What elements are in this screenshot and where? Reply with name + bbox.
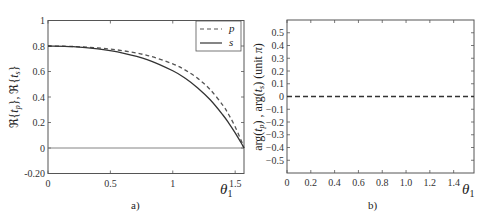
legend-label-p: p <box>228 22 235 34</box>
y-tick-label: −0.2 <box>266 117 284 128</box>
y-tick-label: 0.4 <box>272 40 285 51</box>
y-tick-label: -0.20 <box>24 168 45 179</box>
x-tick-label: 0.8 <box>376 177 389 188</box>
y-axis-label-b: arg(tp) , arg(ts) (unit π) <box>251 43 266 151</box>
series-line-s <box>48 46 244 148</box>
x-tick-label: 1.2 <box>424 177 437 188</box>
y-tick-label: 0 <box>40 143 45 154</box>
y-tick-label: 0.2 <box>33 117 46 128</box>
panel-a: 00.511.5-0.2000.20.40.60.81 p s ℜ{tp}, ℜ… <box>7 15 244 212</box>
y-axis-label-a: ℜ{tp}, ℜ{ts} <box>7 66 22 129</box>
y-tick-label: 0.8 <box>33 41 46 52</box>
ticks-b: 00.20.40.60.81.01.21.4−0.5−0.4−0.3−0.2−0… <box>266 20 474 188</box>
y-tick-label: −0.5 <box>266 155 284 166</box>
x-tick-label: 1 <box>170 178 175 189</box>
y-tick-label: −0.1 <box>266 104 284 115</box>
panel-b: 00.20.40.60.81.01.21.4−0.5−0.4−0.3−0.2−0… <box>251 20 474 212</box>
y-tick-label: 0.4 <box>33 92 46 103</box>
y-tick-label: 0.3 <box>272 53 285 64</box>
panel-label-a: a) <box>131 199 140 212</box>
x-tick-label: 1.0 <box>400 177 413 188</box>
x-tick-label: 0 <box>46 178 51 189</box>
y-tick-label: 0 <box>279 91 284 102</box>
legend-label-s: s <box>229 36 233 48</box>
y-tick-label: 0.5 <box>272 27 285 38</box>
x-tick-label: 1.5 <box>229 178 242 189</box>
y-tick-label: −0.3 <box>266 129 284 140</box>
y-tick-label: −0.4 <box>266 142 284 153</box>
y-tick-label: 1 <box>40 15 45 26</box>
series-line-p <box>48 46 244 148</box>
legend-a: p s <box>196 21 241 51</box>
figure: 00.511.5-0.2000.20.40.60.81 p s ℜ{tp}, ℜ… <box>0 0 495 219</box>
series-a <box>48 46 244 148</box>
y-tick-label: 0.1 <box>272 78 285 89</box>
x-tick-label: 0.6 <box>352 177 365 188</box>
y-tick-label: 0.6 <box>33 66 46 77</box>
x-tick-label: 0 <box>285 177 290 188</box>
x-tick-label: 1.4 <box>447 177 460 188</box>
panel-label-b: b) <box>368 199 378 212</box>
x-tick-label: 0.2 <box>305 177 318 188</box>
x-tick-label: 0.4 <box>328 177 341 188</box>
x-axis-label-b: θ1 <box>462 181 474 199</box>
x-tick-label: 0.5 <box>104 178 117 189</box>
y-tick-label: 0.2 <box>272 66 285 77</box>
